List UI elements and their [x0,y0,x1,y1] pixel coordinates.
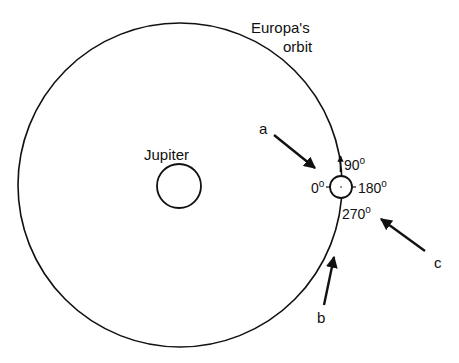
angle-0-label: 0o [311,178,325,196]
europa-orbit-diagram: Jupiter Europa's orbit 0o 90o 180o 270o … [0,0,459,363]
europa-center-dot [340,186,342,188]
orbit-label-line1: Europa's [251,19,310,36]
arrow-c-label: c [434,254,442,271]
viewing-arrow-b [324,257,334,305]
angle-270-label: 270o [342,204,371,222]
arrow-b-label: b [317,309,325,326]
jupiter-label: Jupiter [144,146,189,163]
viewing-arrow-c [381,219,425,251]
angle-180-label: 180o [358,178,387,196]
viewing-arrow-a [274,135,315,168]
arrow-a-label: a [259,120,268,137]
angle-90-label: 90o [344,155,366,173]
jupiter-circle [157,164,201,208]
orbit-label-line2: orbit [283,38,313,55]
